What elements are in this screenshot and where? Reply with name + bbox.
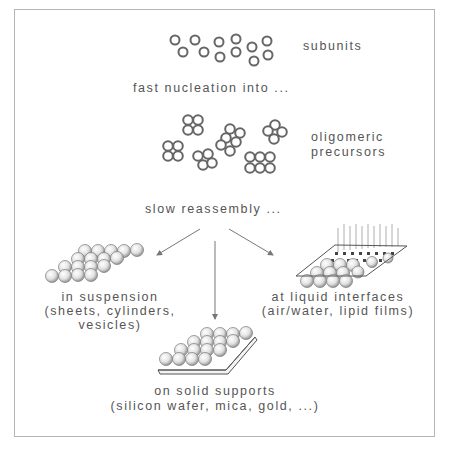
liquid-interface-layer <box>296 224 407 288</box>
subunit-rings <box>171 35 273 66</box>
label-liquid-title: at liquid interfaces <box>248 290 428 304</box>
label-fast-nucleation: fast nucleation into ... <box>133 81 290 95</box>
label-solid-examples: (silicon wafer, mica, gold, ...) <box>85 399 345 413</box>
label-subunits: subunits <box>303 39 362 53</box>
label-solid-title: on solid supports <box>85 384 345 398</box>
suspension-sheet <box>46 244 144 283</box>
label-liquid-examples: (air/water, lipid films) <box>248 304 428 318</box>
label-oligomeric: oligomeric <box>311 130 384 144</box>
label-suspension-vesicles: vesicles) <box>30 318 190 332</box>
solid-support-layer <box>158 327 257 375</box>
oligomer-clusters <box>163 115 287 173</box>
label-precursors: precursors <box>311 145 386 159</box>
label-suspension-examples: (sheets, cylinders, <box>30 304 190 318</box>
label-slow-reassembly: slow reassembly ... <box>145 202 282 216</box>
label-suspension-title: in suspension <box>30 290 190 304</box>
